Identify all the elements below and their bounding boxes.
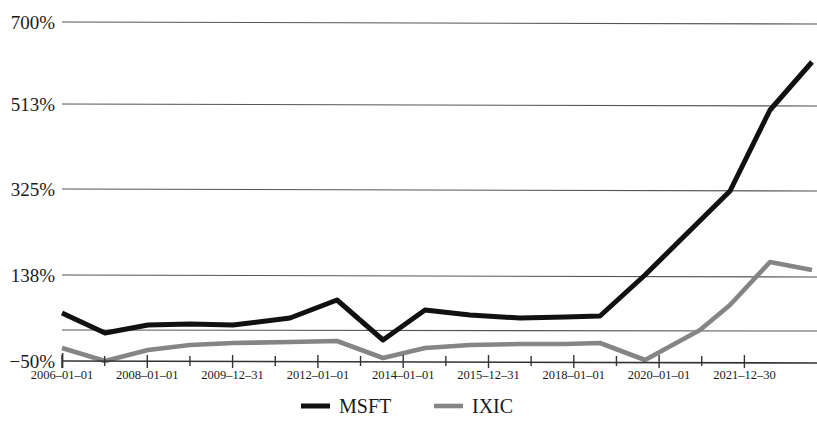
legend-label-ixic: IXIC	[472, 395, 513, 417]
y-tick-label-513: 513%	[11, 94, 56, 115]
x-tick-label: 2012‒01‒01	[287, 368, 350, 382]
x-tick-label: 2014‒01‒01	[372, 368, 435, 382]
x-tick-label: 2015‒12‒31	[457, 368, 520, 382]
y-tick-label-700: 700%	[11, 12, 56, 33]
x-tick-label: 2006‒01‒01	[31, 368, 94, 382]
y-tick-label-325: 325%	[11, 179, 56, 200]
x-axis-labels: 2006‒01‒012008‒01‒012009‒12‒312012‒01‒01…	[31, 368, 776, 382]
x-tick-label: 2018‒01‒01	[543, 368, 606, 382]
legend-label-msft: MSFT	[339, 395, 391, 417]
x-tick-label: 2021‒12‒30	[713, 368, 776, 382]
chart-container: 700% 513% 325% 138% −50% 2006‒01‒012008‒…	[0, 0, 817, 422]
x-tick-label: 2020‒01‒01	[628, 368, 691, 382]
y-tick-label-138: 138%	[11, 265, 56, 286]
line-chart: 700% 513% 325% 138% −50% 2006‒01‒012008‒…	[0, 0, 817, 422]
x-tick-label: 2009‒12‒31	[201, 368, 264, 382]
x-tick-label: 2008‒01‒01	[116, 368, 179, 382]
